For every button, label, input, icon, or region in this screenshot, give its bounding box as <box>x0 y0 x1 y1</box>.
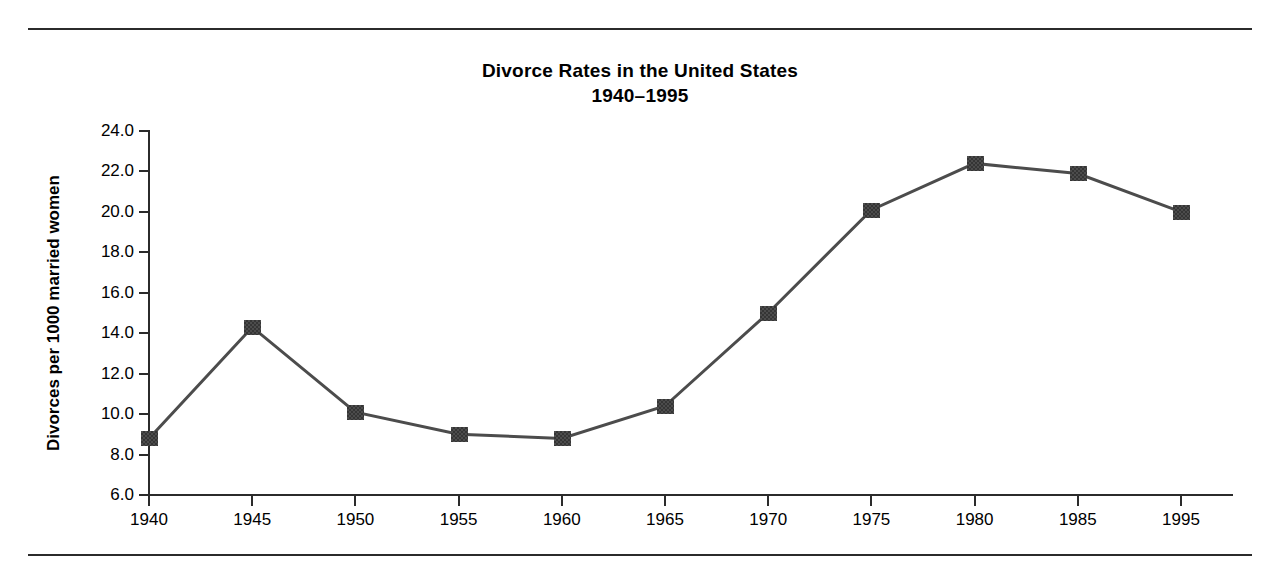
data-point-marker <box>760 306 777 321</box>
data-point-marker <box>1070 166 1087 181</box>
data-point-marker <box>451 427 468 442</box>
data-point-marker <box>554 431 571 446</box>
data-point-marker <box>967 156 984 171</box>
data-point-marker <box>141 431 158 446</box>
figure: Divorce Rates in the United States 1940–… <box>0 0 1280 584</box>
data-point-marker <box>244 320 261 335</box>
plot-area: Divorces per 1000 married women 24.022.0… <box>0 0 1280 584</box>
data-point-marker <box>657 399 674 414</box>
data-point-marker <box>347 405 364 420</box>
series-line <box>0 0 1280 584</box>
data-point-marker <box>863 203 880 218</box>
data-point-marker <box>1173 205 1190 220</box>
